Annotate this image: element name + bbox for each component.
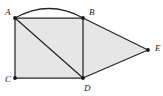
vertex-label-c: C: [5, 74, 12, 84]
vertex-dot-d: [81, 76, 85, 80]
region-triangle-bde: [83, 18, 148, 78]
filled-regions: [15, 18, 148, 78]
vertex-dot-e: [146, 48, 150, 52]
vertex-label-e: E: [154, 43, 161, 53]
geometry-figure-container: A B C D E: [0, 0, 163, 96]
vertex-label-a: A: [4, 7, 11, 17]
vertex-dot-b: [81, 16, 85, 20]
vertex-label-d: D: [83, 83, 91, 93]
arc-ab-curve: [15, 9, 83, 19]
vertex-dot-a: [13, 16, 17, 20]
vertex-label-b: B: [89, 7, 95, 17]
geometry-figure-svg: A B C D E: [0, 0, 163, 96]
vertex-dot-c: [13, 76, 17, 80]
